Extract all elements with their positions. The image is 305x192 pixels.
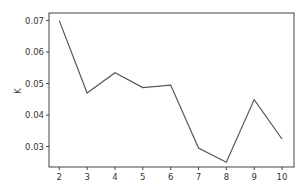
y-axis-label: K [13, 87, 23, 94]
x-tick-label: 3 [84, 172, 89, 182]
chart-canvas: 0.030.040.050.060.07 2345678910 K [0, 0, 305, 192]
y-axis-ticks: 0.030.040.050.060.07 [25, 16, 49, 152]
x-tick-label: 9 [251, 172, 256, 182]
series-line [59, 21, 282, 163]
x-tick-label: 10 [277, 172, 288, 182]
x-tick-label: 2 [57, 172, 62, 182]
data-series [59, 21, 282, 163]
x-tick-label: 5 [140, 172, 145, 182]
y-tick-label: 0.04 [25, 110, 44, 120]
x-axis-ticks: 2345678910 [57, 167, 288, 182]
x-tick-label: 6 [168, 172, 173, 182]
x-tick-label: 8 [224, 172, 229, 182]
x-tick-label: 4 [112, 172, 117, 182]
y-tick-label: 0.06 [25, 47, 44, 57]
y-tick-label: 0.03 [25, 142, 44, 152]
y-tick-label: 0.07 [25, 16, 44, 26]
y-tick-label: 0.05 [25, 79, 44, 89]
line-chart: 0.030.040.050.060.07 2345678910 K [0, 0, 305, 192]
x-tick-label: 7 [196, 172, 201, 182]
